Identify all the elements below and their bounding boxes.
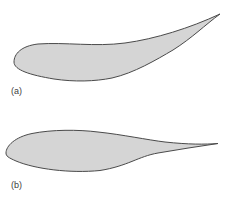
airfoil-b-shape: [6, 130, 218, 171]
airfoil-a-shape: [14, 14, 220, 81]
panel-label-a: (a): [11, 86, 22, 96]
panel-label-b: (b): [11, 180, 22, 190]
figure-container: (a) (b): [0, 0, 228, 200]
figure-canvas: (a) (b): [0, 0, 228, 200]
